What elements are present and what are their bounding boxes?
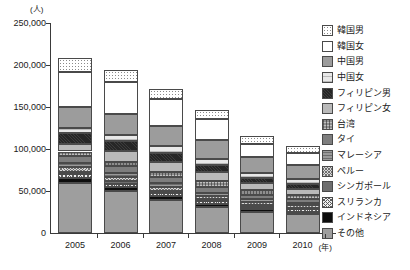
- legend-swatch-icon-cn-f: [322, 72, 333, 83]
- x-axis-tick-mark: [143, 234, 144, 238]
- legend-label: フィリピン男: [337, 89, 391, 98]
- legend-label: 中国女: [337, 73, 364, 82]
- x-axis-label-2008: 2008: [201, 240, 221, 250]
- bar-segment-kr-f[interactable]: [240, 144, 274, 157]
- x-axis-tick-mark: [325, 234, 326, 238]
- y-axis-tick-mark: [46, 149, 50, 150]
- bar-2010[interactable]: [286, 146, 320, 233]
- bar-segment-ph-f[interactable]: [149, 162, 183, 172]
- legend-item-sg[interactable]: シンガポール: [322, 179, 410, 195]
- legend-item-th[interactable]: タイ: [322, 132, 410, 148]
- legend-swatch-icon-ph-f: [322, 103, 333, 114]
- legend-label: タイ: [337, 135, 355, 144]
- legend-item-kr-m[interactable]: 韓国男: [322, 23, 410, 39]
- bar-segment-th[interactable]: [149, 177, 183, 184]
- legend-item-ph-m[interactable]: フィリピン男: [322, 85, 410, 101]
- legend-item-tw[interactable]: 台湾: [322, 117, 410, 133]
- legend-item-lk[interactable]: スリランカ: [322, 195, 410, 211]
- bar-segment-cn-m[interactable]: [58, 107, 92, 128]
- legend-item-ph-f[interactable]: フィリピン女: [322, 101, 410, 117]
- bar-segment-cn-m[interactable]: [286, 165, 320, 179]
- bar-2009[interactable]: [240, 136, 274, 233]
- x-axis-label-2010: 2010: [292, 240, 312, 250]
- legend-swatch-icon-pe: [322, 166, 333, 177]
- bar-segment-ph-m[interactable]: [195, 165, 229, 172]
- bar-segment-kr-m[interactable]: [240, 136, 274, 144]
- y-axis-tick-mark: [46, 191, 50, 192]
- bar-segment-kr-m[interactable]: [286, 146, 320, 153]
- bar-segment-th[interactable]: [58, 156, 92, 164]
- bar-segment-ot[interactable]: [195, 207, 229, 233]
- bar-segment-cn-f[interactable]: [149, 146, 183, 153]
- legend: 韓国男韓国女中国男中国女フィリピン男フィリピン女台湾タイマレーシアペルーシンガポ…: [322, 23, 410, 241]
- legend-item-cn-f[interactable]: 中国女: [322, 70, 410, 86]
- bar-segment-kr-f[interactable]: [286, 153, 320, 165]
- x-axis-label-2009: 2009: [247, 240, 267, 250]
- bar-2006[interactable]: [104, 70, 138, 233]
- legend-label: フィリピン女: [337, 104, 391, 113]
- x-axis-tick-mark: [279, 234, 280, 238]
- bar-segment-ph-f[interactable]: [240, 183, 274, 190]
- y-axis-tick-mark: [46, 65, 50, 66]
- bar-2005[interactable]: [58, 58, 92, 233]
- bar-segment-ot[interactable]: [58, 183, 92, 233]
- legend-label: 韓国女: [337, 42, 364, 51]
- legend-swatch-icon-my: [322, 150, 333, 161]
- legend-label: 台湾: [337, 120, 355, 129]
- bar-segment-ot[interactable]: [286, 214, 320, 233]
- legend-swatch-icon-kr-f: [322, 41, 333, 52]
- bar-segment-ot[interactable]: [149, 200, 183, 233]
- bar-segment-ph-m[interactable]: [58, 133, 92, 144]
- legend-item-pe[interactable]: ペルー: [322, 163, 410, 179]
- legend-swatch-icon-ph-m: [322, 88, 333, 99]
- bar-segment-kr-f[interactable]: [149, 99, 183, 126]
- bar-segment-ph-m[interactable]: [149, 153, 183, 161]
- bar-segment-kr-f[interactable]: [104, 82, 138, 114]
- bar-2007[interactable]: [149, 89, 183, 233]
- legend-swatch-icon-cn-m: [322, 56, 333, 67]
- legend-label: 韓国男: [337, 26, 364, 35]
- bar-segment-cn-m[interactable]: [149, 126, 183, 146]
- bar-segment-kr-m[interactable]: [58, 58, 92, 72]
- bar-segment-kr-f[interactable]: [195, 119, 229, 140]
- bar-segment-th[interactable]: [104, 166, 138, 173]
- legend-label: シンガポール: [337, 182, 391, 191]
- bar-segment-kr-m[interactable]: [149, 89, 183, 100]
- bar-segment-kr-m[interactable]: [104, 70, 138, 82]
- legend-item-my[interactable]: マレーシア: [322, 148, 410, 164]
- x-axis-unit-label: (年): [319, 241, 332, 252]
- x-axis-label-2006: 2006: [110, 240, 130, 250]
- bar-segment-cn-m[interactable]: [195, 140, 229, 158]
- legend-label: スリランカ: [337, 198, 382, 207]
- bar-segment-ph-f[interactable]: [195, 172, 229, 181]
- x-axis-label-2007: 2007: [156, 240, 176, 250]
- legend-swatch-icon-id: [322, 212, 333, 223]
- legend-label: その他: [337, 229, 364, 238]
- legend-swatch-icon-lk: [322, 197, 333, 208]
- x-axis-label-2005: 2005: [65, 240, 85, 250]
- bar-segment-ph-f[interactable]: [104, 151, 138, 162]
- y-axis-tick-mark: [46, 23, 50, 24]
- legend-label: インドネシア: [337, 213, 391, 222]
- bar-segment-cn-m[interactable]: [104, 114, 138, 135]
- bar-segment-ph-f[interactable]: [58, 144, 92, 152]
- legend-swatch-icon-sg: [322, 181, 333, 192]
- legend-item-kr-f[interactable]: 韓国女: [322, 39, 410, 55]
- stacked-bar-chart: (人) 250,000200,000150,000100,00050,0000 …: [0, 0, 410, 270]
- bar-2008[interactable]: [195, 110, 229, 233]
- bar-segment-ot[interactable]: [104, 191, 138, 233]
- x-axis-tick-mark: [188, 234, 189, 238]
- bar-segment-ot[interactable]: [240, 212, 274, 233]
- bar-segment-cn-f[interactable]: [195, 159, 229, 166]
- plot-area: [0, 0, 330, 270]
- bar-segment-ph-m[interactable]: [104, 141, 138, 151]
- bar-segment-cn-m[interactable]: [240, 157, 274, 172]
- legend-swatch-icon-kr-m: [322, 25, 333, 36]
- bar-segment-kr-f[interactable]: [58, 72, 92, 107]
- bar-segment-kr-m[interactable]: [195, 110, 229, 120]
- legend-label: 中国男: [337, 57, 364, 66]
- legend-item-id[interactable]: インドネシア: [322, 210, 410, 226]
- legend-label: ペルー: [337, 167, 364, 176]
- legend-item-cn-m[interactable]: 中国男: [322, 54, 410, 70]
- legend-item-ot[interactable]: その他: [322, 226, 410, 242]
